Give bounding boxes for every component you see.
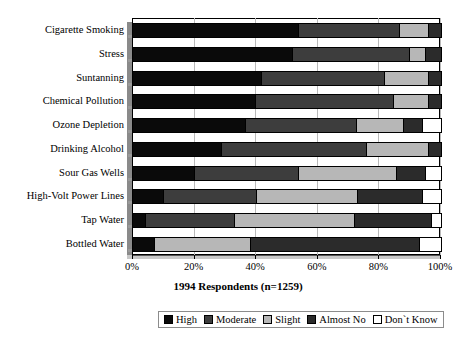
bar-segment-almost-no: [403, 119, 422, 132]
bar-segment-slight: [154, 238, 250, 251]
bar-segment-high: [133, 48, 292, 61]
bar-segment-slight: [393, 95, 428, 108]
bar-segment-moderate: [292, 48, 409, 61]
chart-legend: HighModerateSlightAlmost NoDon`t Know: [158, 311, 444, 328]
bar-segment-slight: [234, 214, 354, 227]
bar-segment-don-t-know: [419, 238, 441, 251]
bar-segment-slight: [409, 48, 425, 61]
category-label: Chemical Pollution: [0, 95, 124, 106]
bar-segment-moderate: [261, 72, 384, 85]
table-row[interactable]: [132, 47, 442, 62]
legend-item[interactable]: Almost No: [307, 314, 365, 325]
bar-segment-slight: [356, 119, 403, 132]
bar-segment-almost-no: [428, 143, 441, 156]
table-row[interactable]: [132, 71, 442, 86]
x-axis-tick-label: 100%: [418, 261, 462, 272]
bar-segment-almost-no: [428, 95, 441, 108]
bar-segment-high: [133, 72, 261, 85]
category-label: Ozone Depletion: [0, 119, 124, 130]
bar-segment-slight: [256, 190, 357, 203]
category-label: High-Volt Power Lines: [0, 190, 124, 201]
category-label: Suntanning: [0, 72, 124, 83]
bar-segment-high: [133, 190, 163, 203]
bar-segment-high: [133, 143, 221, 156]
category-label: Cigarette Smoking: [0, 24, 124, 35]
table-row[interactable]: [132, 94, 442, 109]
bar-segment-don-t-know: [422, 190, 441, 203]
bar-segment-slight: [298, 167, 396, 180]
bar-segment-almost-no: [428, 24, 441, 37]
bar-segment-moderate: [194, 167, 298, 180]
table-row[interactable]: [132, 118, 442, 133]
x-axis-tick: [132, 255, 133, 259]
bar-segment-high: [133, 238, 154, 251]
category-label: Tap Water: [0, 214, 124, 225]
legend-swatch-icon: [164, 315, 173, 324]
legend-label: Don`t Know: [385, 314, 438, 325]
legend-swatch-icon: [263, 315, 272, 324]
table-row[interactable]: [132, 237, 442, 252]
bar-segment-slight: [399, 24, 427, 37]
bar-segment-slight: [384, 72, 428, 85]
x-axis-tick: [317, 255, 318, 259]
bar-segment-high: [133, 167, 194, 180]
table-row[interactable]: [132, 189, 442, 204]
table-row[interactable]: [132, 142, 442, 157]
legend-label: High: [176, 314, 197, 325]
bar-segment-slight: [366, 143, 428, 156]
legend-label: Moderate: [216, 314, 256, 325]
category-label: Bottled Water: [0, 238, 124, 249]
bar-segment-moderate: [221, 143, 365, 156]
bar-segment-almost-no: [357, 190, 422, 203]
bar-segment-moderate: [298, 24, 400, 37]
legend-item[interactable]: Don`t Know: [373, 314, 438, 325]
legend-item[interactable]: High: [164, 314, 197, 325]
legend-label: Slight: [275, 314, 300, 325]
x-axis-tick: [255, 255, 256, 259]
bar-segment-almost-no: [428, 72, 441, 85]
bar-segment-moderate: [145, 214, 234, 227]
bar-segment-moderate: [255, 95, 393, 108]
x-axis-tick-label: 80%: [356, 261, 400, 272]
bar-segment-high: [133, 95, 255, 108]
table-row[interactable]: [132, 23, 442, 38]
chart-container: 0%20%40%60%80%100%Cigarette SmokingStres…: [0, 0, 476, 349]
bar-segment-moderate: [163, 190, 255, 203]
legend-item[interactable]: Moderate: [204, 314, 256, 325]
legend-swatch-icon: [204, 315, 213, 324]
x-axis-tick-label: 60%: [295, 261, 339, 272]
bar-segment-high: [133, 119, 245, 132]
legend-swatch-icon: [373, 315, 382, 324]
legend-swatch-icon: [307, 315, 316, 324]
x-axis-tick: [194, 255, 195, 259]
bar-segment-don-t-know: [422, 119, 441, 132]
x-axis-tick: [378, 255, 379, 259]
plot-floor-edge: [132, 255, 440, 256]
bar-segment-almost-no: [250, 238, 419, 251]
table-row[interactable]: [132, 213, 442, 228]
x-axis-tick-label: 0%: [110, 261, 154, 272]
bar-segment-almost-no: [354, 214, 431, 227]
category-label: Stress: [0, 48, 124, 59]
legend-label: Almost No: [319, 314, 365, 325]
bar-segment-don-t-know: [431, 214, 441, 227]
category-label: Drinking Alcohol: [0, 143, 124, 154]
bar-segment-almost-no: [425, 48, 441, 61]
bar-segment-moderate: [245, 119, 355, 132]
bar-segment-high: [133, 214, 145, 227]
x-axis-tick: [440, 255, 441, 259]
bar-segment-almost-no: [396, 167, 424, 180]
x-axis-title: 1994 Respondents (n=1259): [0, 280, 476, 292]
bar-segment-don-t-know: [425, 167, 441, 180]
bar-segment-high: [133, 24, 298, 37]
x-axis-tick-label: 20%: [172, 261, 216, 272]
table-row[interactable]: [132, 166, 442, 181]
category-label: Sour Gas Wells: [0, 167, 124, 178]
x-axis-tick-label: 40%: [233, 261, 277, 272]
legend-item[interactable]: Slight: [263, 314, 300, 325]
